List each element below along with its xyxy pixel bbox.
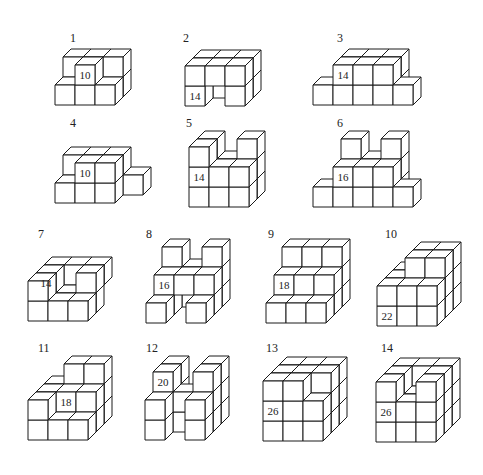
unit-cube — [373, 159, 401, 187]
unit-cube — [237, 131, 265, 159]
unit-cube — [68, 293, 96, 321]
unit-cube — [68, 412, 96, 440]
unit-cube — [189, 139, 217, 167]
figure-number-label: 11 — [38, 341, 50, 355]
cube-figure-9: 918 — [266, 227, 350, 323]
figure-number-label: 1 — [70, 31, 76, 45]
figure-number-label: 3 — [337, 31, 343, 45]
unit-cube — [322, 239, 350, 267]
cube-count-label: 26 — [381, 406, 393, 418]
cube-count-label: 14 — [338, 69, 350, 81]
unit-cube — [194, 267, 222, 295]
unit-cube — [145, 392, 173, 420]
figure-number-label: 9 — [268, 227, 274, 241]
unit-cube — [306, 295, 334, 323]
unit-cube — [95, 155, 123, 183]
unit-cube — [225, 58, 253, 86]
unit-cube — [381, 131, 409, 159]
unit-cube — [76, 384, 104, 412]
cube-count-label: 10 — [80, 167, 92, 179]
cube-figures-diagram: 1102143144105146167148169181022111812201… — [0, 0, 483, 475]
cube-count-label: 20 — [158, 376, 170, 388]
cube-count-label: 26 — [268, 405, 280, 417]
figure-number-label: 5 — [186, 116, 192, 130]
cube-figure-2: 214 — [183, 31, 261, 106]
cube-count-label: 18 — [61, 396, 73, 408]
cube-count-label: 10 — [80, 69, 92, 81]
unit-cube — [162, 239, 190, 267]
figure-number-label: 14 — [381, 341, 393, 355]
cube-figure-4: 410 — [55, 116, 151, 203]
cube-figure-11: 1118 — [28, 341, 112, 440]
unit-cube — [283, 373, 311, 401]
figure-number-label: 12 — [146, 341, 158, 355]
cube-count-label: 16 — [338, 171, 350, 183]
cube-figure-8: 816 — [146, 227, 230, 323]
unit-cube — [373, 57, 401, 85]
cube-figure-6: 616 — [313, 116, 421, 207]
cube-figure-10: 1022 — [377, 227, 461, 326]
cube-figure-12: 1220 — [145, 341, 229, 440]
figure-number-label: 4 — [70, 116, 76, 130]
unit-cube — [146, 295, 174, 323]
unit-cube — [76, 265, 104, 293]
unit-cube — [417, 278, 445, 306]
unit-cube — [28, 392, 56, 420]
cube-count-label: 14 — [190, 90, 202, 102]
figure-number-label: 13 — [266, 341, 278, 355]
figure-number-label: 6 — [337, 116, 343, 130]
cube-count-label: 22 — [382, 310, 393, 322]
figure-number-label: 10 — [385, 227, 397, 241]
cube-count-label: 14 — [41, 277, 53, 289]
unit-cube — [311, 365, 339, 393]
cube-figure-3: 314 — [313, 31, 421, 105]
cube-count-label: 14 — [194, 171, 206, 183]
figure-number-label: 2 — [183, 31, 189, 45]
figure-number-label: 7 — [38, 227, 44, 241]
cube-figure-14: 1426 — [376, 341, 460, 442]
unit-cube — [202, 239, 230, 267]
figure-number-label: 8 — [146, 227, 152, 241]
cube-figure-5: 514 — [186, 116, 265, 207]
cube-count-label: 18 — [279, 279, 291, 291]
unit-cube — [186, 295, 214, 323]
cube-figure-7: 714 — [28, 227, 112, 321]
unit-cube — [229, 159, 257, 187]
cube-figure-1: 110 — [55, 31, 131, 105]
unit-cube — [341, 131, 369, 159]
unit-cube — [193, 364, 221, 392]
cube-figure-13: 1326 — [263, 341, 347, 441]
unit-cube — [314, 267, 342, 295]
unit-cube — [376, 374, 404, 402]
unit-cube — [425, 250, 453, 278]
unit-cube — [103, 49, 131, 77]
cube-count-label: 16 — [159, 279, 171, 291]
unit-cube — [185, 392, 213, 420]
unit-cube — [84, 356, 112, 384]
unit-cube — [416, 374, 444, 402]
